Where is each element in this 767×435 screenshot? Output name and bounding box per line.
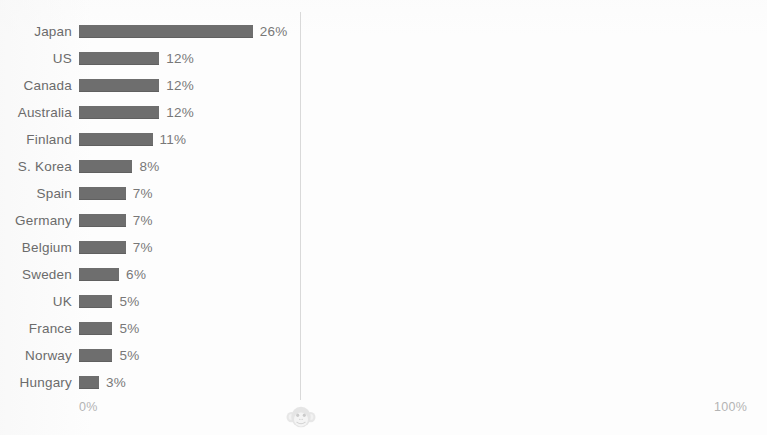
category-label: S. Korea bbox=[0, 159, 72, 174]
x-axis-tick-min: 0% bbox=[79, 400, 98, 414]
bar bbox=[79, 52, 159, 65]
value-label: 7% bbox=[133, 213, 153, 228]
bar-and-value: 12% bbox=[79, 79, 194, 92]
bar-and-value: 5% bbox=[79, 349, 140, 362]
bar-row: Spain7% bbox=[0, 180, 767, 207]
value-label: 6% bbox=[126, 267, 146, 282]
bar-and-value: 8% bbox=[79, 160, 160, 173]
bar-row: Norway5% bbox=[0, 342, 767, 369]
bar-and-value: 3% bbox=[79, 376, 126, 389]
category-label: Hungary bbox=[0, 375, 72, 390]
bar-and-value: 5% bbox=[79, 295, 140, 308]
bar bbox=[79, 349, 112, 362]
bar bbox=[79, 214, 126, 227]
bar-row: Hungary3% bbox=[0, 369, 767, 396]
bar bbox=[79, 79, 159, 92]
bar bbox=[79, 376, 99, 389]
category-label: Australia bbox=[0, 105, 72, 120]
bar bbox=[79, 160, 132, 173]
bar-row: S. Korea8% bbox=[0, 153, 767, 180]
bar bbox=[79, 25, 253, 38]
bar-row: UK5% bbox=[0, 288, 767, 315]
bar bbox=[79, 133, 153, 146]
value-label: 3% bbox=[106, 375, 126, 390]
category-label: France bbox=[0, 321, 72, 336]
category-label: Canada bbox=[0, 78, 72, 93]
category-label: Belgium bbox=[0, 240, 72, 255]
bar bbox=[79, 268, 119, 281]
bar bbox=[79, 106, 159, 119]
category-label: Norway bbox=[0, 348, 72, 363]
value-label: 7% bbox=[133, 186, 153, 201]
bar-and-value: 26% bbox=[79, 25, 288, 38]
bar-and-value: 11% bbox=[79, 133, 186, 146]
bar bbox=[79, 322, 112, 335]
bar-row: Germany7% bbox=[0, 207, 767, 234]
bar-and-value: 6% bbox=[79, 268, 146, 281]
value-label: 7% bbox=[133, 240, 153, 255]
bar-row: Sweden6% bbox=[0, 261, 767, 288]
value-label: 12% bbox=[166, 78, 194, 93]
bar bbox=[79, 295, 112, 308]
bar bbox=[79, 241, 126, 254]
bar-row: Japan26% bbox=[0, 18, 767, 45]
bar-and-value: 5% bbox=[79, 322, 140, 335]
bar-rows: Japan26%US12%Canada12%Australia12%Finlan… bbox=[0, 18, 767, 396]
bar-row: US12% bbox=[0, 45, 767, 72]
bar bbox=[79, 187, 126, 200]
bar-and-value: 12% bbox=[79, 52, 194, 65]
category-label: Sweden bbox=[0, 267, 72, 282]
value-label: 5% bbox=[119, 321, 139, 336]
category-label: Spain bbox=[0, 186, 72, 201]
bar-and-value: 7% bbox=[79, 214, 153, 227]
category-label: Germany bbox=[0, 213, 72, 228]
bar-row: Finland11% bbox=[0, 126, 767, 153]
category-label: US bbox=[0, 51, 72, 66]
value-label: 12% bbox=[166, 105, 194, 120]
value-label: 8% bbox=[139, 159, 159, 174]
x-axis-tick-max: 100% bbox=[714, 400, 747, 414]
bar-row: France5% bbox=[0, 315, 767, 342]
bar-row: Canada12% bbox=[0, 72, 767, 99]
value-label: 5% bbox=[119, 348, 139, 363]
bar-row: Belgium7% bbox=[0, 234, 767, 261]
monkey-face-icon bbox=[286, 404, 316, 432]
value-label: 11% bbox=[160, 132, 187, 147]
horizontal-bar-chart: Japan26%US12%Canada12%Australia12%Finlan… bbox=[0, 0, 767, 435]
value-label: 12% bbox=[166, 51, 194, 66]
category-label: Finland bbox=[0, 132, 72, 147]
bar-and-value: 7% bbox=[79, 241, 153, 254]
bar-and-value: 7% bbox=[79, 187, 153, 200]
value-label: 5% bbox=[119, 294, 139, 309]
value-label: 26% bbox=[260, 24, 288, 39]
bar-row: Australia12% bbox=[0, 99, 767, 126]
category-label: Japan bbox=[0, 24, 72, 39]
category-label: UK bbox=[0, 294, 72, 309]
bar-and-value: 12% bbox=[79, 106, 194, 119]
